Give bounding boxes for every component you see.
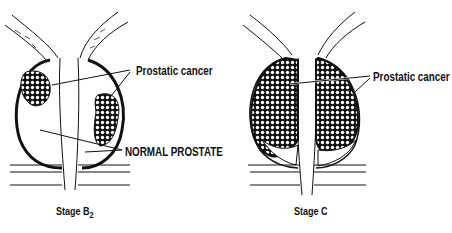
caption-stage-b2-text: Stage B xyxy=(56,205,90,217)
caption-stage-b2-subscript: 2 xyxy=(90,210,94,220)
caption-stage-c: Stage C xyxy=(294,205,328,217)
label-normal-prostate: NORMAL PROSTATE xyxy=(125,145,223,159)
label-prostatic-cancer-b2: Prostatic cancer xyxy=(136,64,213,78)
caption-stage-b2: Stage B2 xyxy=(56,205,94,220)
panel-stage-b2 xyxy=(5,12,130,190)
prostate-staging-diagram xyxy=(0,0,452,233)
panel-stage-c xyxy=(243,12,370,195)
label-prostatic-cancer-c: Prostatic cancer xyxy=(373,70,450,84)
